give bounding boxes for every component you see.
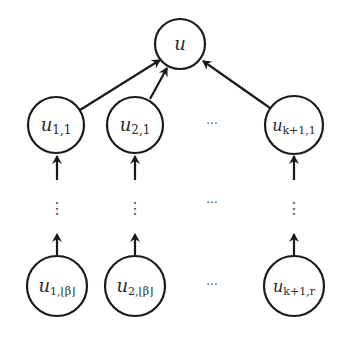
- vertical-ellipsis-2: ⋮: [127, 199, 143, 218]
- node-u-1-beta: u1,⌊β⌋: [27, 256, 87, 316]
- node-u-k1-r: uk+1,r: [264, 256, 324, 316]
- edge-uk11-to-u: [203, 61, 270, 108]
- horizontal-ellipsis-bottom: ···: [206, 278, 217, 292]
- node-u-1-1: u1,1: [28, 97, 84, 153]
- svg-text:u: u: [174, 33, 186, 54]
- horizontal-ellipsis-chain: ···: [206, 196, 217, 210]
- vertical-ellipsis-k1: ⋮: [286, 199, 302, 218]
- edge-u21-to-u: [150, 68, 167, 99]
- node-u: u: [155, 19, 205, 69]
- vertical-ellipsis-1: ⋮: [49, 199, 65, 218]
- node-u-2-1: u2,1: [107, 97, 163, 153]
- node-u-2-beta: u2,⌊β⌋: [105, 256, 165, 316]
- horizontal-ellipsis-middle: ···: [206, 117, 217, 131]
- tree-diagram: u u1,1 u2,1 uk+1,1 u1,⌊β⌋ u2,⌊β⌋ uk: [0, 0, 345, 344]
- node-u-k1-1: uk+1,1: [265, 96, 323, 154]
